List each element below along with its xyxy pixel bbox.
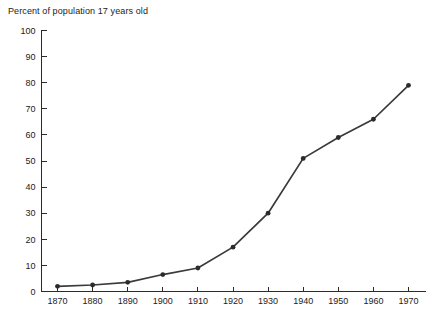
data-point-marker bbox=[231, 245, 236, 250]
y-axis: 0102030405060708090100 bbox=[20, 26, 46, 297]
chart-page: Percent of population 17 years old 01020… bbox=[0, 0, 438, 323]
x-axis-tick-label: 1890 bbox=[118, 296, 138, 306]
series-line bbox=[58, 85, 409, 286]
data-point-marker bbox=[371, 117, 376, 122]
data-series bbox=[55, 83, 411, 289]
y-axis-tick-label: 100 bbox=[20, 26, 35, 36]
y-axis-tick-label: 30 bbox=[25, 208, 35, 218]
data-point-marker bbox=[196, 266, 201, 271]
data-point-marker bbox=[406, 83, 411, 88]
y-axis-tick-label: 10 bbox=[25, 261, 35, 271]
data-point-marker bbox=[55, 284, 60, 289]
y-axis-tick-label: 20 bbox=[25, 235, 35, 245]
y-axis-tick-label: 90 bbox=[25, 52, 35, 62]
data-point-marker bbox=[125, 280, 130, 285]
x-axis-tick-label: 1870 bbox=[47, 296, 67, 306]
y-axis-tick-label: 40 bbox=[25, 182, 35, 192]
y-axis-tick-label: 70 bbox=[25, 104, 35, 114]
x-axis-tick-label: 1970 bbox=[398, 296, 418, 306]
x-axis-tick-label: 1950 bbox=[328, 296, 348, 306]
line-chart-plot: 0102030405060708090100 18701880189019001… bbox=[0, 0, 438, 323]
x-axis-tick-label: 1910 bbox=[188, 296, 208, 306]
x-axis-tick-label: 1930 bbox=[258, 296, 278, 306]
x-axis-tick-label: 1880 bbox=[83, 296, 103, 306]
x-axis-tick-label: 1960 bbox=[363, 296, 383, 306]
data-point-marker bbox=[90, 283, 95, 288]
data-point-marker bbox=[160, 272, 165, 277]
x-axis: 1870188018901900191019201930194019501960… bbox=[42, 287, 426, 306]
y-axis-tick-label: 50 bbox=[25, 156, 35, 166]
x-axis-tick-label: 1920 bbox=[223, 296, 243, 306]
y-axis-tick-label: 60 bbox=[25, 130, 35, 140]
data-point-marker bbox=[266, 211, 271, 216]
data-point-marker bbox=[336, 135, 341, 140]
data-point-marker bbox=[301, 156, 306, 161]
x-axis-tick-label: 1940 bbox=[293, 296, 313, 306]
y-axis-tick-label: 80 bbox=[25, 78, 35, 88]
y-axis-tick-label: 0 bbox=[30, 287, 35, 297]
x-axis-tick-label: 1900 bbox=[153, 296, 173, 306]
